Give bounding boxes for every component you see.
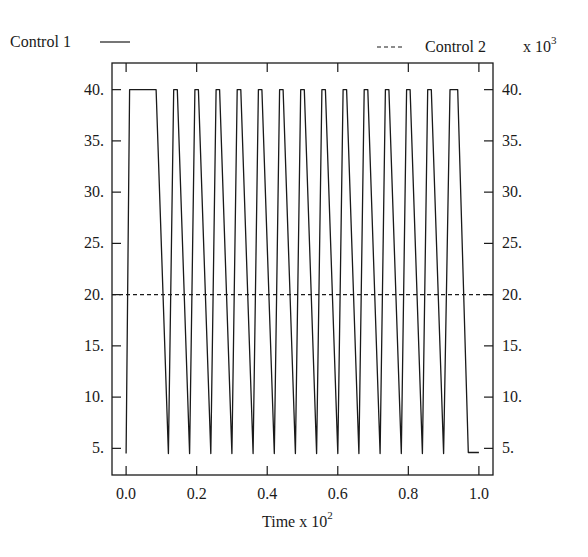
legend-label-control-2: Control 2: [425, 38, 486, 55]
y-tick-label-right: 15.: [502, 337, 522, 354]
right-axis-multiplier: x 103: [523, 34, 557, 55]
x-tick-label: 0.0: [116, 485, 136, 502]
x-tick-label: 0.8: [398, 485, 418, 502]
x-axis-label-exponent: 2: [327, 509, 333, 521]
y-tick-label-left: 25.: [84, 234, 104, 251]
y-tick-label-left: 40.: [84, 81, 104, 98]
x-tick-label: 0.4: [257, 485, 277, 502]
x-axis-label: Time x 102: [262, 509, 333, 530]
y-tick-label-left: 20.: [84, 286, 104, 303]
y-tick-label-right: 5.: [502, 439, 514, 456]
y-tick-label-left: 10.: [84, 388, 104, 405]
y-ticks: 5.5.10.10.15.15.20.20.25.25.30.30.35.35.…: [84, 81, 522, 457]
x-tick-label: 0.6: [328, 485, 348, 502]
right-axis-multiplier-exponent: 3: [551, 34, 557, 46]
y-tick-label-right: 25.: [502, 234, 522, 251]
series-layer: [112, 90, 493, 454]
series-control-1: [126, 90, 479, 454]
x-axis-label-base: Time x 10: [262, 513, 327, 530]
x-tick-label: 0.2: [187, 485, 207, 502]
right-axis-multiplier-base: x 10: [523, 38, 551, 55]
y-tick-label-left: 30.: [84, 183, 104, 200]
y-tick-label-right: 20.: [502, 286, 522, 303]
y-tick-label-right: 35.: [502, 132, 522, 149]
y-tick-label-left: 5.: [92, 439, 104, 456]
y-tick-label-right: 10.: [502, 388, 522, 405]
y-tick-label-left: 35.: [84, 132, 104, 149]
y-tick-label-right: 40.: [502, 81, 522, 98]
legend-label-control-1: Control 1: [10, 33, 71, 50]
chart: Control 1 Control 2 x 103 0.00.20.40.60.…: [0, 0, 588, 557]
x-tick-label: 1.0: [469, 485, 489, 502]
y-tick-label-right: 30.: [502, 183, 522, 200]
y-tick-label-left: 15.: [84, 337, 104, 354]
